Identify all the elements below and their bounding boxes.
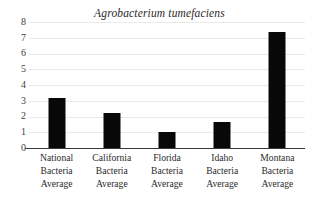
- x-label-line: Average: [84, 177, 139, 190]
- x-axis-line: [25, 148, 305, 149]
- bar-montana-bacteria-average[interactable]: [269, 32, 286, 148]
- plot-area: [29, 22, 305, 148]
- x-label-line: Idaho: [195, 151, 250, 164]
- x-label-line: Bacteria: [250, 164, 305, 177]
- x-label-line: Average: [139, 177, 194, 190]
- x-category-label-idaho: Idaho Bacteria Average: [195, 151, 250, 191]
- bar-slot: [250, 22, 305, 148]
- bar-california-bacteria-average[interactable]: [103, 113, 120, 148]
- x-label-line: Florida: [139, 151, 194, 164]
- x-label-line: California: [84, 151, 139, 164]
- bar-slot: [195, 22, 250, 148]
- y-axis: 8 7 6 5 4 3 2 1 0: [0, 0, 26, 203]
- bar-florida-bacteria-average[interactable]: [158, 132, 175, 148]
- x-label-line: Bacteria: [29, 164, 84, 177]
- x-label-line: Average: [29, 177, 84, 190]
- x-label-line: Bacteria: [195, 164, 250, 177]
- y-tick-label: 6: [4, 48, 26, 58]
- y-tick-label: 2: [4, 111, 26, 121]
- y-tick-label: 1: [4, 127, 26, 137]
- x-category-label-national: National Bacteria Average: [29, 151, 84, 191]
- bar-slot: [29, 22, 84, 148]
- y-tick-label: 4: [4, 80, 26, 90]
- bar-slot: [84, 22, 139, 148]
- x-label-line: Montana: [250, 151, 305, 164]
- bar-national-bacteria-average[interactable]: [48, 98, 65, 148]
- y-tick-label: 3: [4, 96, 26, 106]
- x-label-line: Bacteria: [139, 164, 194, 177]
- bar-chart: Agrobacterium tumefaciens 8 7 6 5 4 3 2 …: [0, 0, 319, 203]
- bar-slot: [139, 22, 194, 148]
- chart-title: Agrobacterium tumefaciens: [0, 7, 319, 19]
- x-category-label-florida: Florida Bacteria Average: [139, 151, 194, 191]
- x-category-label-montana: Montana Bacteria Average: [250, 151, 305, 191]
- bar-idaho-bacteria-average[interactable]: [214, 122, 231, 148]
- x-label-line: Bacteria: [84, 164, 139, 177]
- x-label-line: Average: [195, 177, 250, 190]
- y-tick-label: 5: [4, 64, 26, 74]
- x-axis: National Bacteria Average California Bac…: [29, 151, 305, 201]
- y-tick-label: 8: [4, 17, 26, 27]
- x-category-label-california: California Bacteria Average: [84, 151, 139, 191]
- y-tick-label: 0: [4, 143, 26, 153]
- x-label-line: National: [29, 151, 84, 164]
- x-label-line: Average: [250, 177, 305, 190]
- y-tick-label: 7: [4, 33, 26, 43]
